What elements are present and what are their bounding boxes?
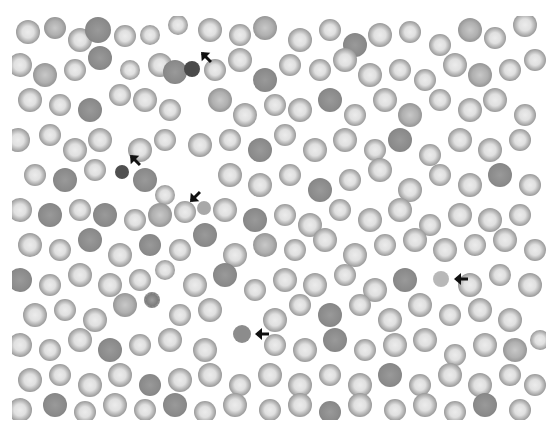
- red-blood-cell: [64, 59, 86, 81]
- red-blood-cell: [129, 334, 151, 356]
- red-blood-cell: [319, 19, 341, 41]
- red-blood-cell: [229, 24, 251, 46]
- red-blood-cell: [288, 393, 312, 417]
- red-blood-cell: [348, 393, 372, 417]
- red-blood-cell: [74, 401, 96, 420]
- red-blood-cell: [518, 273, 542, 297]
- red-blood-cell: [458, 173, 482, 197]
- red-blood-cell: [39, 124, 61, 146]
- red-blood-cell: [18, 368, 42, 392]
- red-blood-cell: [233, 103, 257, 127]
- red-blood-cell: [108, 363, 132, 387]
- red-blood-cell: [303, 273, 327, 297]
- red-blood-cell: [368, 158, 392, 182]
- red-blood-cell: [323, 328, 347, 352]
- red-blood-cell: [44, 17, 66, 39]
- red-blood-cell: [393, 268, 417, 292]
- red-blood-cell: [103, 393, 127, 417]
- red-blood-cell: [78, 98, 102, 122]
- marked-cell: [233, 325, 251, 343]
- red-blood-cell: [289, 294, 311, 316]
- red-blood-cell: [398, 103, 422, 127]
- red-blood-cell: [438, 363, 462, 387]
- red-blood-cell: [458, 18, 482, 42]
- red-blood-cell: [228, 48, 252, 72]
- red-blood-cell: [12, 53, 32, 77]
- red-blood-cell: [388, 198, 412, 222]
- red-blood-cell: [378, 308, 402, 332]
- red-blood-cell: [12, 333, 32, 357]
- red-blood-cell: [433, 238, 457, 262]
- red-blood-cell: [12, 398, 32, 420]
- red-blood-cell: [483, 88, 507, 112]
- red-blood-cell: [333, 128, 357, 152]
- red-blood-cell: [148, 203, 172, 227]
- red-blood-cell: [213, 198, 237, 222]
- red-blood-cell: [419, 144, 441, 166]
- red-blood-cell: [308, 178, 332, 202]
- red-blood-cell: [83, 308, 107, 332]
- red-blood-cell: [168, 368, 192, 392]
- red-blood-cell: [468, 298, 492, 322]
- red-blood-cell: [403, 228, 427, 252]
- red-blood-cell: [313, 228, 337, 252]
- red-blood-cell: [144, 292, 160, 308]
- red-blood-cell: [49, 364, 71, 386]
- red-blood-cell: [503, 338, 527, 362]
- red-blood-cell: [303, 138, 327, 162]
- red-blood-cell: [509, 129, 531, 151]
- red-blood-cell: [93, 203, 117, 227]
- red-blood-cell: [319, 401, 341, 420]
- marked-cell: [184, 61, 200, 77]
- red-blood-cell: [384, 399, 406, 420]
- red-blood-cell: [349, 294, 371, 316]
- red-blood-cell: [133, 168, 157, 192]
- red-blood-cell: [139, 234, 161, 256]
- red-blood-cell: [329, 199, 351, 221]
- red-blood-cell: [213, 263, 237, 287]
- red-blood-cell: [524, 374, 546, 396]
- red-blood-cell: [458, 98, 482, 122]
- red-blood-cell: [16, 20, 40, 44]
- red-blood-cell: [354, 339, 376, 361]
- red-blood-cell: [68, 263, 92, 287]
- red-blood-cell: [169, 239, 191, 261]
- red-blood-cell: [274, 124, 296, 146]
- red-blood-cell: [248, 173, 272, 197]
- red-blood-cell: [464, 234, 486, 256]
- red-blood-cell: [158, 328, 182, 352]
- red-blood-cell: [493, 228, 517, 252]
- red-blood-cell: [43, 393, 67, 417]
- marked-cell: [433, 271, 449, 287]
- red-blood-cell: [478, 208, 502, 232]
- red-blood-cell: [168, 16, 188, 35]
- red-blood-cell: [98, 273, 122, 297]
- red-blood-cell: [389, 59, 411, 81]
- red-blood-cell: [198, 363, 222, 387]
- red-blood-cell: [88, 128, 112, 152]
- red-blood-cell: [309, 59, 331, 81]
- red-blood-cell: [248, 138, 272, 162]
- red-blood-cell: [288, 28, 312, 52]
- red-blood-cell: [478, 138, 502, 162]
- red-blood-cell: [334, 264, 356, 286]
- red-blood-cell: [499, 364, 521, 386]
- red-blood-cell: [524, 239, 546, 261]
- red-blood-cell: [12, 128, 30, 152]
- red-blood-cell: [124, 209, 146, 231]
- red-blood-cell: [54, 299, 76, 321]
- red-blood-cell: [388, 128, 412, 152]
- red-blood-cell: [193, 223, 217, 247]
- red-blood-cell: [108, 243, 132, 267]
- red-blood-cell: [253, 16, 277, 40]
- red-blood-cell: [49, 239, 71, 261]
- arrow-pointer-icon: [253, 325, 271, 343]
- red-blood-cell: [530, 330, 546, 350]
- red-blood-cell: [253, 233, 277, 257]
- red-blood-cell: [253, 68, 277, 92]
- red-blood-cell: [68, 328, 92, 352]
- red-blood-cell: [444, 401, 466, 420]
- red-blood-cell: [193, 338, 217, 362]
- red-blood-cell: [473, 393, 497, 417]
- red-blood-cell: [524, 49, 546, 71]
